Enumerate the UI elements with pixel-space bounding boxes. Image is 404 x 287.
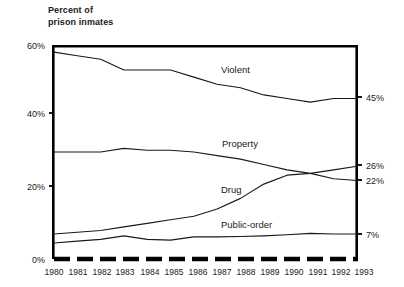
chart-container: Percent ofprison inmates 60% 40% 20% 0% … <box>0 0 404 287</box>
x-tick-label-1983: 1983 <box>116 267 135 277</box>
x-tick-label-1989: 1989 <box>261 267 280 277</box>
end-label-violent: 45% <box>366 93 384 103</box>
y-tick-label-20: 20% <box>27 182 45 192</box>
end-label-drug: 26% <box>366 161 384 171</box>
end-label-property: 22% <box>366 176 384 186</box>
series-label-property: Property <box>222 138 258 149</box>
end-label-public-order: 7% <box>366 230 379 240</box>
line-chart-svg: 60% 40% 20% 0% 45% 26% 22% 7% Violent Pr… <box>0 0 404 287</box>
x-tick-label-1985: 1985 <box>165 267 184 277</box>
y-tick-label-60: 60% <box>27 41 45 51</box>
x-tick-label-1991: 1991 <box>309 267 328 277</box>
series-line-property <box>54 148 357 180</box>
series-line-violent <box>54 52 357 102</box>
x-tick-label-1986: 1986 <box>189 267 208 277</box>
x-tick-label-1988: 1988 <box>237 267 256 277</box>
series-label-public-order: Public-order <box>221 219 272 230</box>
y-tick-label-40: 40% <box>27 109 45 119</box>
x-tick-label-1981: 1981 <box>69 267 88 277</box>
x-tick-label-1982: 1982 <box>93 267 112 277</box>
x-axis-tick-labels: 1980 1981 1982 1983 1984 1985 1986 1987 … <box>45 267 374 277</box>
series-label-violent: Violent <box>221 64 250 75</box>
series-label-drug: Drug <box>221 184 242 195</box>
y-tick-label-0: 0% <box>32 255 45 265</box>
x-tick-label-1987: 1987 <box>213 267 232 277</box>
series-line-drug <box>54 166 357 234</box>
x-tick-label-1984: 1984 <box>141 267 160 277</box>
x-tick-label-1993: 1993 <box>355 267 374 277</box>
x-tick-label-1980: 1980 <box>45 267 64 277</box>
x-tick-label-1992: 1992 <box>332 267 351 277</box>
series-line-public-order <box>54 233 357 243</box>
x-tick-label-1990: 1990 <box>285 267 304 277</box>
